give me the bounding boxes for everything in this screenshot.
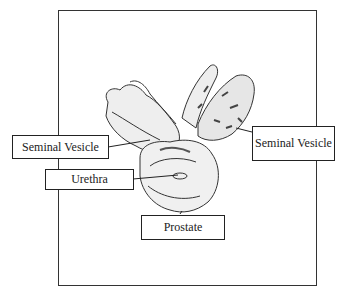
- label-text: Urethra: [71, 172, 108, 187]
- label-seminal-vesicle-left: Seminal Vesicle: [12, 135, 109, 159]
- label-text: Seminal Vesicle: [255, 136, 332, 151]
- label-text: Seminal Vesicle: [22, 140, 99, 155]
- label-text: Prostate: [164, 220, 203, 235]
- label-prostate: Prostate: [141, 215, 225, 240]
- label-urethra: Urethra: [45, 169, 134, 190]
- label-seminal-vesicle-right: Seminal Vesicle: [252, 126, 335, 161]
